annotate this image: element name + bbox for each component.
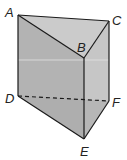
vertex-label-C: C (112, 13, 122, 28)
vertex-label-D: D (5, 91, 14, 106)
triangular-prism-diagram: A B C D E F (0, 0, 127, 160)
vertex-label-B: B (77, 40, 86, 55)
vertex-label-F: F (112, 95, 121, 110)
face-DEF-bottom (18, 96, 109, 139)
vertex-label-E: E (80, 144, 89, 159)
vertex-label-A: A (4, 5, 14, 20)
